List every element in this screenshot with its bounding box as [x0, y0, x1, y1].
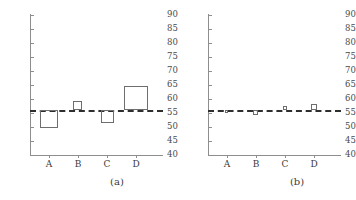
y-tick-label: 60 — [152, 94, 178, 103]
y-tick-label: 60 — [330, 94, 356, 103]
y-tick-label: 65 — [152, 80, 178, 89]
panel-a: 90 85 80 75 70 65 60 55 50 45 40 — [0, 0, 178, 200]
x-tick-label-b: B — [68, 159, 88, 170]
y-tick-label: 75 — [152, 52, 178, 61]
x-tick — [78, 155, 79, 158]
square-marker-a-D — [124, 86, 148, 110]
two-panel-figure: 90 85 80 75 70 65 60 55 50 45 40 — [0, 0, 356, 200]
y-tick-label: 80 — [152, 38, 178, 47]
y-tick-label: 85 — [330, 24, 356, 33]
square-marker-b-C — [283, 106, 287, 110]
plot-area-b: 90 85 80 75 70 65 60 55 50 45 40 — [178, 0, 356, 200]
y-tick — [208, 85, 212, 86]
y-tick — [30, 71, 34, 72]
y-tick — [208, 71, 212, 72]
y-tick — [30, 113, 34, 114]
x-tick-label-d: D — [126, 159, 146, 170]
x-tick-label-a: A — [217, 159, 237, 170]
y-tick-label: 50 — [152, 122, 178, 131]
y-tick — [30, 15, 34, 16]
square-marker-a-B — [73, 101, 82, 110]
x-tick — [314, 155, 315, 158]
x-tick-label-a: A — [39, 159, 59, 170]
y-tick-label: 70 — [330, 66, 356, 75]
y-tick — [208, 155, 212, 156]
y-tick — [208, 141, 212, 142]
x-tick-label-d: D — [304, 159, 324, 170]
y-tick-label: 40 — [152, 150, 178, 159]
panel-caption-a: (a) — [0, 176, 206, 188]
square-marker-b-B — [253, 110, 258, 115]
x-tick — [136, 155, 137, 158]
x-tick-label-b: B — [246, 159, 266, 170]
y-tick — [30, 85, 34, 86]
y-tick-label: 65 — [330, 80, 356, 89]
square-marker-b-A — [225, 110, 228, 113]
y-tick — [208, 29, 212, 30]
y-tick-label: 45 — [330, 136, 356, 145]
square-marker-b-D — [311, 104, 317, 110]
y-tick-label: 90 — [152, 10, 178, 19]
y-tick — [30, 155, 34, 156]
square-marker-a-C — [101, 110, 114, 123]
panel-caption-b: (b) — [178, 176, 356, 188]
x-tick — [107, 155, 108, 158]
x-tick-label-c: C — [275, 159, 295, 170]
y-tick — [30, 127, 34, 128]
y-tick-label: 45 — [152, 136, 178, 145]
y-tick-label: 50 — [330, 122, 356, 131]
y-tick — [30, 43, 34, 44]
x-tick-label-c: C — [97, 159, 117, 170]
y-tick-label: 40 — [330, 150, 356, 159]
square-marker-a-A — [40, 110, 58, 128]
y-tick — [208, 127, 212, 128]
y-tick-label: 70 — [152, 66, 178, 75]
y-tick-label: 75 — [330, 52, 356, 61]
y-tick-label: 90 — [330, 10, 356, 19]
y-tick — [208, 15, 212, 16]
y-tick — [30, 99, 34, 100]
panel-b: 90 85 80 75 70 65 60 55 50 45 40 — [178, 0, 356, 200]
x-tick — [256, 155, 257, 158]
plot-area-a: 90 85 80 75 70 65 60 55 50 45 40 — [0, 0, 178, 200]
y-tick — [208, 43, 212, 44]
x-tick — [49, 155, 50, 158]
y-tick-label: 80 — [330, 38, 356, 47]
x-tick — [285, 155, 286, 158]
y-tick-label: 85 — [152, 24, 178, 33]
y-tick — [208, 57, 212, 58]
y-tick — [30, 141, 34, 142]
y-tick — [30, 29, 34, 30]
y-tick — [30, 57, 34, 58]
x-tick — [227, 155, 228, 158]
y-tick — [208, 113, 212, 114]
y-tick — [208, 99, 212, 100]
